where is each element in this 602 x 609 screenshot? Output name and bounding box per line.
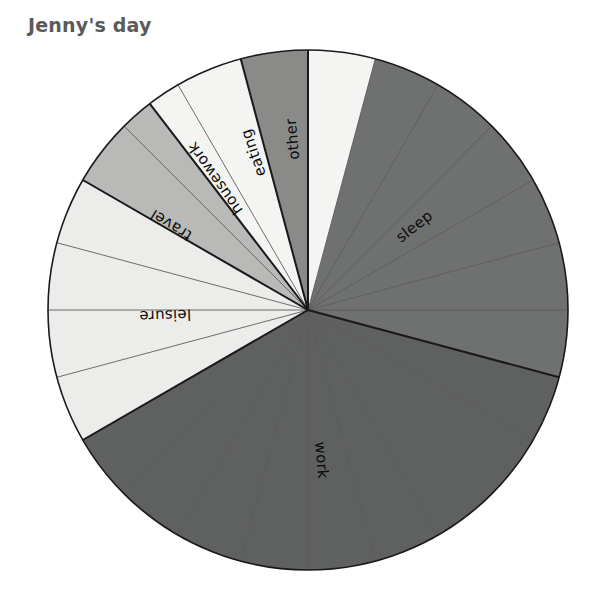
slice-label-other: other bbox=[282, 117, 304, 160]
pie-chart-svg: sleepworkleisuretravelhouseworkeatingoth… bbox=[0, 0, 602, 609]
slice-label-work: work bbox=[311, 441, 332, 480]
chart-page: Jenny's day sleepworkleisuretravelhousew… bbox=[0, 0, 602, 609]
pie-chart: sleepworkleisuretravelhouseworkeatingoth… bbox=[0, 0, 602, 609]
slice-label-leisure: leisure bbox=[139, 306, 192, 326]
